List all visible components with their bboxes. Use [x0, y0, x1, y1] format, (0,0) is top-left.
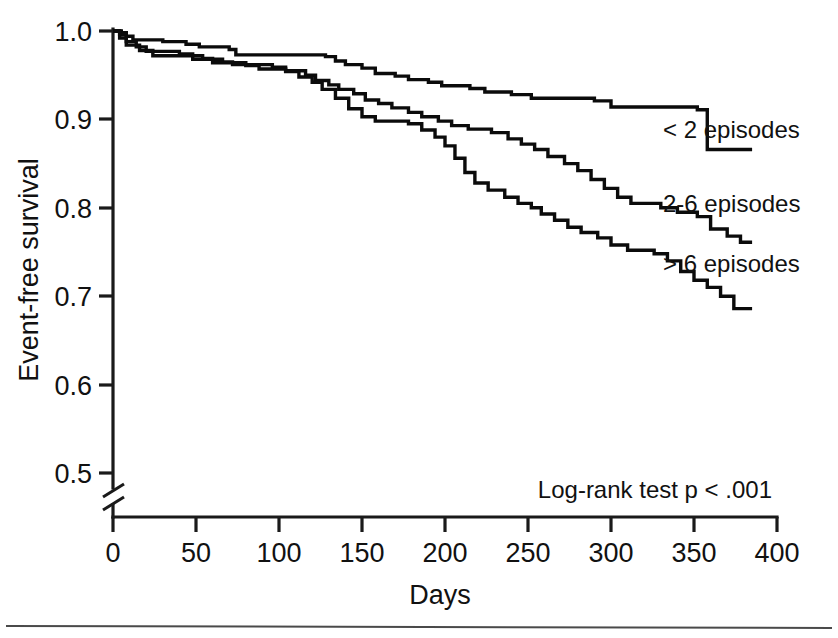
- footer-divider: [6, 626, 832, 628]
- x-tick-label-3: 100: [256, 538, 301, 568]
- curve-series-3: [113, 31, 752, 309]
- log-rank-annotation: Log-rank test p < .001: [538, 476, 772, 503]
- x-axis-ticks: [113, 517, 777, 532]
- curve-series-2: [113, 31, 752, 242]
- survival-chart-figure: 1.0 0.9 0.8 0.7 0.6 0.5 0 50 100 150 200…: [0, 0, 838, 638]
- y-tick-label-3: 0.8: [54, 194, 92, 224]
- x-tick-label-5: 200: [422, 538, 467, 568]
- x-axis-title: Days: [409, 580, 471, 610]
- curve-label-lt2: < 2 episodes: [663, 116, 800, 143]
- y-tick-label-4: 0.7: [54, 282, 92, 312]
- y-axis-ticks: [99, 31, 113, 473]
- x-tick-label-8: 350: [671, 538, 716, 568]
- x-tick-label-6: 250: [505, 538, 550, 568]
- x-tick-label-7: 300: [588, 538, 633, 568]
- x-tick-label-1: 0: [105, 538, 120, 568]
- y-tick-label-6: 0.5: [54, 459, 92, 489]
- y-tick-label-2: 0.9: [54, 105, 92, 135]
- curve-label-gt6: > 6 episodes: [663, 250, 800, 277]
- y-tick-label-1: 1.0: [54, 17, 92, 47]
- x-tick-label-2: 50: [181, 538, 211, 568]
- curve-label-2to6: 2-6 episodes: [663, 190, 800, 217]
- x-tick-label-4: 150: [339, 538, 384, 568]
- chart-canvas: 1.0 0.9 0.8 0.7 0.6 0.5 0 50 100 150 200…: [0, 0, 838, 638]
- x-tick-label-9: 400: [754, 538, 799, 568]
- survival-curves: [113, 31, 752, 309]
- y-tick-label-5: 0.6: [54, 371, 92, 401]
- y-axis-title: Event-free survival: [14, 158, 44, 382]
